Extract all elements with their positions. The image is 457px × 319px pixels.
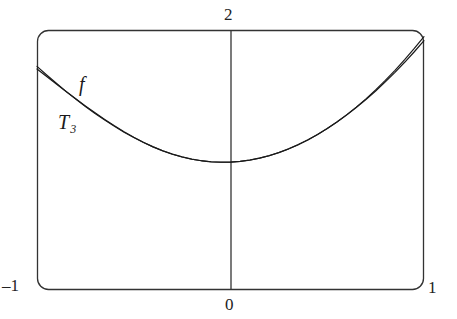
- curve-label-f: f: [79, 74, 85, 94]
- x-axis-tick-label-origin: 0: [225, 296, 234, 313]
- x-axis-tick-label-left: –1: [2, 277, 19, 294]
- x-axis-tick-label-right: 1: [428, 279, 437, 296]
- function-plot-figure: [0, 0, 457, 319]
- y-axis-tick-label-top: 2: [224, 6, 233, 23]
- curve-label-t3: T3: [58, 112, 75, 132]
- curve-label-t3-subscript: 3: [70, 122, 76, 136]
- curve-label-t3-base: T: [58, 111, 69, 133]
- plot-background: [0, 0, 457, 319]
